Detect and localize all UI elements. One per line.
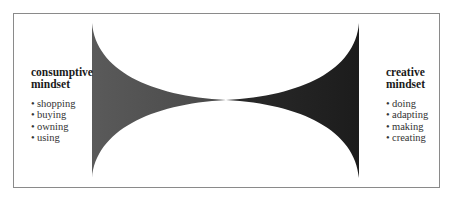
item-label: shopping (37, 98, 76, 109)
list-item: •owning (31, 121, 93, 132)
list-item: •doing (386, 98, 428, 109)
list-item: •adapting (386, 109, 428, 120)
item-label: making (392, 121, 424, 132)
title-line-1: creative (386, 66, 425, 78)
creative-list: •doing •adapting •making •creating (386, 98, 428, 143)
creative-mindset-title: creative mindset (386, 66, 428, 90)
consumptive-mindset-panel: consumptive mindset •shopping •buying •o… (31, 66, 93, 143)
title-line-2: mindset (31, 78, 70, 90)
title-line-2: mindset (386, 78, 425, 90)
consumptive-list: •shopping •buying •owning •using (31, 98, 93, 143)
item-label: buying (37, 109, 66, 120)
item-label: using (37, 132, 60, 143)
list-item: •creating (386, 132, 428, 143)
item-label: creating (392, 132, 426, 143)
consumptive-mindset-title: consumptive mindset (31, 66, 93, 90)
list-item: •making (386, 121, 428, 132)
item-label: doing (392, 98, 416, 109)
list-item: •shopping (31, 98, 93, 109)
list-item: •using (31, 132, 93, 143)
item-label: adapting (392, 109, 428, 120)
hourglass-path (92, 23, 359, 178)
item-label: owning (37, 121, 69, 132)
creative-mindset-panel: creative mindset •doing •adapting •makin… (386, 66, 428, 143)
list-item: •buying (31, 109, 93, 120)
title-line-1: consumptive (31, 66, 93, 78)
